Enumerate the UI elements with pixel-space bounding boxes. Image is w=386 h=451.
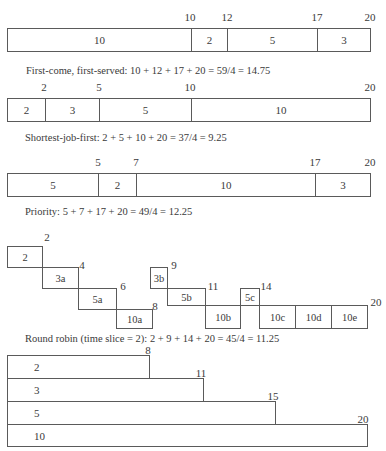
fcfs-tick-10: 10 — [185, 11, 196, 23]
rr-tick-6: 6 — [120, 280, 126, 292]
completion-bar-2: 2 — [7, 355, 150, 379]
completion-bar-10: 10 — [7, 424, 368, 447]
completion-bar-5: 5 — [7, 401, 276, 425]
completion-bar-label: 3 — [34, 384, 40, 396]
fcfs-tick-17: 17 — [312, 11, 323, 23]
sjf-tick-10: 10 — [185, 81, 196, 93]
rr-tick-20: 20 — [371, 296, 382, 308]
fcfs-segment: 5 — [227, 29, 317, 51]
rr-slice-5b: 5b — [167, 288, 206, 306]
fcfs-segment: 2 — [191, 29, 227, 51]
rr-slice-3a: 3a — [42, 267, 79, 289]
rr-tick-4: 4 — [79, 259, 85, 271]
priority-caption: Priority: 5 + 7 + 17 + 20 = 49/4 = 12.25 — [25, 206, 192, 217]
fcfs-segment: 10 — [8, 29, 191, 51]
rr-tick-11: 11 — [208, 280, 219, 292]
completion-bar-label: 5 — [34, 407, 40, 419]
rr-tick-8: 8 — [152, 300, 158, 312]
rr-slice-5a: 5a — [78, 288, 117, 310]
rr-slice-5c: 5c — [240, 288, 260, 306]
fcfs-timeline-bar: 10 2 5 3 — [7, 28, 371, 52]
sjf-segment: 2 — [8, 99, 45, 121]
priority-segment: 3 — [315, 174, 370, 196]
completion-bar-label: 10 — [34, 430, 45, 442]
completion-bar-label: 2 — [34, 361, 40, 373]
rr-slice-10d: 10d — [295, 305, 332, 329]
sjf-segment: 5 — [99, 99, 191, 121]
sjf-tick-5: 5 — [96, 81, 102, 93]
sjf-caption: Shortest-job-first: 2 + 5 + 10 + 20 = 37… — [25, 132, 227, 143]
fcfs-tick-12: 12 — [222, 11, 233, 23]
rr-slice-10c: 10c — [259, 305, 296, 329]
sjf-tick-2: 2 — [41, 81, 47, 93]
fcfs-tick-20: 20 — [365, 11, 376, 23]
priority-timeline-bar: 5 2 10 3 — [7, 173, 371, 197]
priority-tick-5: 5 — [95, 156, 101, 168]
rr-slice-2: 2 — [7, 246, 43, 268]
rr-slice-10e: 10e — [331, 305, 368, 329]
priority-segment: 10 — [136, 174, 315, 196]
rr-caption: Round robin (time slice = 2): 2 + 9 + 14… — [25, 333, 279, 344]
priority-segment: 2 — [98, 174, 136, 196]
sjf-tick-20: 20 — [365, 81, 376, 93]
priority-segment: 5 — [8, 174, 98, 196]
rr-slice-3b: 3b — [150, 267, 168, 289]
sjf-timeline-bar: 2 3 5 10 — [7, 98, 371, 122]
completion-bar-3: 3 — [7, 378, 204, 402]
priority-tick-7: 7 — [133, 156, 139, 168]
rr-tick-2: 2 — [44, 231, 50, 243]
fcfs-segment: 3 — [317, 29, 370, 51]
rr-slice-10b: 10b — [205, 305, 241, 329]
priority-tick-20: 20 — [365, 156, 376, 168]
rr-tick-14: 14 — [261, 280, 272, 292]
rr-slice-10a: 10a — [116, 309, 153, 329]
sjf-segment: 3 — [45, 99, 99, 121]
fcfs-caption: First-come, first-served: 10 + 12 + 17 +… — [26, 65, 270, 76]
sjf-segment: 10 — [191, 99, 370, 121]
priority-tick-17: 17 — [310, 156, 321, 168]
rr-tick-9: 9 — [171, 259, 177, 271]
